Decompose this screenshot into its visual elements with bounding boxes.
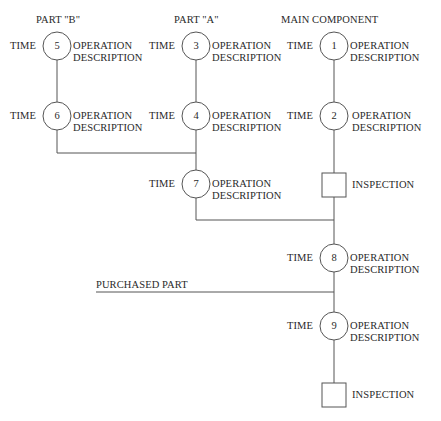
purchased-part-label: PURCHASED PART <box>96 279 188 291</box>
operation-line2: DESCRIPTION <box>212 190 281 202</box>
operation-line2: DESCRIPTION <box>350 52 419 64</box>
operation-line1: OPERATION <box>350 320 409 332</box>
operation-line2: DESCRIPTION <box>350 264 419 276</box>
time-label: TIME <box>287 252 313 264</box>
operation-line1: OPERATION <box>73 110 132 122</box>
time-label: TIME <box>287 110 313 122</box>
operation-number: 8 <box>320 252 348 264</box>
operation-line2: DESCRIPTION <box>212 122 281 134</box>
operation-number: 4 <box>182 110 210 122</box>
operation-number: 6 <box>43 110 71 122</box>
time-label: TIME <box>149 178 175 190</box>
operation-number: 2 <box>320 110 348 122</box>
operation-line1: OPERATION <box>350 252 409 264</box>
inspection-label: INSPECTION <box>352 179 414 191</box>
inspection-1-square <box>322 173 346 197</box>
operation-line2: DESCRIPTION <box>352 122 421 134</box>
operation-number: 9 <box>320 320 348 332</box>
operation-line1: OPERATION <box>212 40 271 52</box>
time-label: TIME <box>287 40 313 52</box>
operation-line2: DESCRIPTION <box>350 332 419 344</box>
operation-number: 3 <box>182 40 210 52</box>
operation-number: 5 <box>43 40 71 52</box>
operation-line2: DESCRIPTION <box>73 52 142 64</box>
operation-number: 1 <box>320 40 348 52</box>
inspection-2-square <box>322 383 346 407</box>
operation-line2: DESCRIPTION <box>212 52 281 64</box>
operation-line1: OPERATION <box>352 110 411 122</box>
time-label: TIME <box>287 320 313 332</box>
header-main-component: MAIN COMPONENT <box>281 14 378 26</box>
time-label: TIME <box>10 110 36 122</box>
header-part-b: PART "B" <box>36 14 80 26</box>
operation-number: 7 <box>182 178 210 190</box>
operation-line2: DESCRIPTION <box>73 122 142 134</box>
operation-line1: OPERATION <box>73 40 132 52</box>
operation-line1: OPERATION <box>350 40 409 52</box>
time-label: TIME <box>149 110 175 122</box>
time-label: TIME <box>149 40 175 52</box>
operation-line1: OPERATION <box>212 110 271 122</box>
inspection-label: INSPECTION <box>352 389 414 401</box>
operation-line1: OPERATION <box>212 178 271 190</box>
time-label: TIME <box>10 40 36 52</box>
header-part-a: PART "A" <box>174 14 219 26</box>
